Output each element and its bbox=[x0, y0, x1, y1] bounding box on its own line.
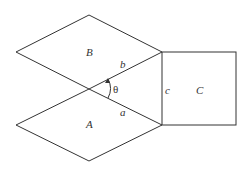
label-c-area: C bbox=[196, 84, 204, 96]
label-b-area: B bbox=[86, 46, 93, 58]
label-theta: θ bbox=[113, 83, 118, 95]
diagram-canvas: B A C b a c θ bbox=[0, 0, 249, 172]
label-a-area: A bbox=[85, 118, 93, 130]
label-side-c: c bbox=[165, 84, 170, 96]
label-side-b: b bbox=[120, 58, 126, 70]
label-side-a: a bbox=[120, 106, 126, 118]
